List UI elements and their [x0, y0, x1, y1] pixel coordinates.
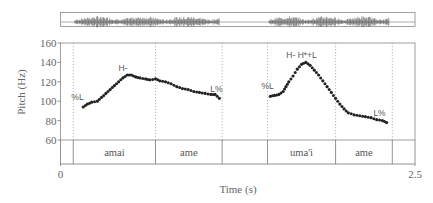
- pitch-point: [367, 116, 370, 119]
- pitch-point: [148, 78, 151, 81]
- x-tick-2-5: 2.5: [408, 168, 422, 180]
- pitch-point: [164, 80, 167, 83]
- pitch-chart: 6080100120140160 %LH-L%%LH- H*+LL% amaia…: [0, 0, 433, 203]
- pitch-point: [385, 121, 388, 124]
- pitch-point: [198, 91, 201, 94]
- pitch-point: [291, 74, 294, 77]
- pitch-point: [201, 91, 204, 94]
- pitch-point: [151, 78, 154, 81]
- tone-label: L%: [210, 84, 223, 94]
- pitch-point: [161, 80, 164, 83]
- pitch-point: [319, 76, 322, 79]
- pitch-point: [378, 119, 381, 122]
- pitch-point: [90, 101, 93, 104]
- tone-label: %L: [71, 92, 84, 102]
- pitch-point: [138, 76, 141, 79]
- pitch-point: [93, 100, 96, 103]
- pitch-point: [317, 73, 320, 76]
- pitch-point: [375, 118, 378, 121]
- pitch-point: [361, 115, 364, 118]
- pitch-point: [206, 92, 209, 95]
- pitch-point: [172, 84, 175, 87]
- pitch-point: [334, 97, 337, 100]
- pitch-point: [321, 79, 324, 82]
- pitch-point: [347, 111, 350, 114]
- word-label: ame: [180, 147, 198, 158]
- pitch-points: [82, 61, 389, 124]
- y-tick-label: 140: [40, 56, 57, 68]
- word-label: amai: [104, 147, 124, 158]
- pitch-point: [170, 82, 173, 85]
- x-axis-label: Time (s): [219, 183, 257, 196]
- pitch-point: [141, 77, 144, 80]
- tier-intervals: amaiameuma'iame: [73, 140, 392, 164]
- pitch-point: [352, 113, 355, 116]
- pitch-point: [328, 88, 331, 91]
- pitch-point: [355, 114, 358, 117]
- pitch-point: [218, 97, 221, 100]
- pitch-point: [167, 81, 170, 84]
- pitch-point: [315, 71, 318, 74]
- pitch-point: [195, 90, 198, 93]
- waveform: [75, 16, 389, 28]
- pitch-point: [311, 66, 314, 69]
- waveform-panel: [61, 13, 416, 28]
- pitch-point: [308, 64, 311, 67]
- y-axis-label: Pitch (Hz): [15, 69, 28, 115]
- pitch-point: [181, 87, 184, 90]
- pitch-point: [158, 79, 161, 82]
- tone-label: L%: [373, 108, 386, 118]
- word-label: ame: [355, 147, 373, 158]
- pitch-point: [340, 105, 343, 108]
- pitch-point: [178, 86, 181, 89]
- pitch-point: [294, 71, 297, 74]
- pitch-point: [325, 85, 328, 88]
- pitch-point: [369, 116, 372, 119]
- pitch-point: [350, 112, 353, 115]
- tone-annotations: %LH-L%%LH- H*+LL%: [71, 50, 386, 118]
- pitch-point: [289, 77, 292, 80]
- pitch-point: [192, 90, 195, 93]
- y-axis: 6080100120140160: [40, 37, 61, 146]
- pitch-point: [298, 65, 301, 68]
- pitch-point: [330, 91, 333, 94]
- pitch-point: [332, 94, 335, 97]
- pitch-point: [175, 85, 178, 88]
- tone-label: H- H*+L: [286, 50, 317, 60]
- tone-label: H-: [118, 63, 127, 73]
- pitch-point: [364, 115, 367, 118]
- pitch-point: [189, 89, 192, 92]
- pitch-point: [323, 82, 326, 85]
- pitch-point: [313, 69, 316, 72]
- boundary-lines: [73, 43, 392, 140]
- plot-area: 6080100120140160 %LH-L%%LH- H*+LL%: [40, 37, 415, 146]
- pitch-point: [184, 88, 187, 91]
- pitch-point: [358, 114, 361, 117]
- y-tick-label: 160: [40, 37, 57, 49]
- pitch-point: [287, 80, 290, 83]
- pitch-point: [204, 92, 207, 95]
- y-tick-label: 100: [40, 95, 57, 107]
- x-tick-0: 0: [58, 168, 64, 180]
- tone-label: %L: [261, 81, 274, 91]
- pitch-point: [338, 103, 341, 106]
- pitch-point: [336, 100, 339, 103]
- y-tick-label: 60: [46, 134, 58, 146]
- y-tick-label: 120: [40, 76, 57, 88]
- word-tier: amaiameuma'iame: [61, 140, 416, 166]
- pitch-point: [296, 68, 299, 71]
- word-label: uma'i: [290, 147, 313, 158]
- y-tick-label: 80: [46, 115, 58, 127]
- pitch-point: [187, 88, 190, 91]
